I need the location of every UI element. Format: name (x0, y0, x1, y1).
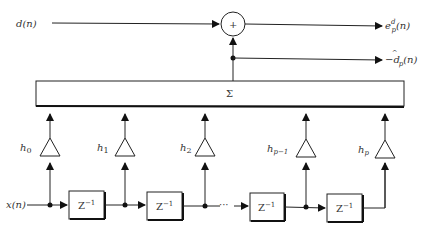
delay-2: Z−1 (147, 192, 183, 220)
delay-3: Z−1 (250, 193, 285, 221)
wiener-filter-diagram: d(n) + edp(n) −d^p(n) Σ h0 h1 h2 hp (0, 0, 421, 232)
error-output-line (245, 24, 382, 26)
tap-2: h2 (180, 114, 215, 205)
svg-text:hp: hp (358, 144, 369, 157)
estimate-output-line (233, 58, 382, 60)
tap-0: h0 (20, 114, 60, 205)
estimate-output-label: −d^p(n) (385, 49, 417, 68)
sigma-box (36, 81, 404, 106)
delay-4: Z−1 (327, 194, 363, 222)
delay-1: Z−1 (69, 191, 105, 219)
sigma-symbol: Σ (226, 88, 233, 99)
desired-signal-label: d(n) (16, 18, 37, 29)
desired-signal-line (52, 23, 219, 24)
summer-plus-icon: + (229, 19, 237, 30)
error-output-label: edp(n) (385, 18, 410, 34)
svg-text:h2: h2 (180, 142, 192, 155)
input-signal-label: x(n) (6, 199, 26, 210)
tap-p: hp (358, 114, 395, 208)
svg-text:h0: h0 (20, 142, 32, 155)
svg-text:hp−1: hp−1 (267, 143, 288, 156)
ellipsis: ··· (219, 199, 229, 210)
svg-text:h1: h1 (97, 142, 109, 155)
